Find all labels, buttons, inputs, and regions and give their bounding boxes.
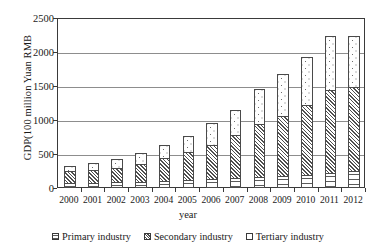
bar-segment-tertiary[interactable] (325, 36, 337, 91)
x-axis-tick-mark (294, 188, 295, 192)
legend-item[interactable]: Primary industry (52, 231, 131, 242)
bar-stack[interactable] (277, 74, 289, 187)
y-axis-tick-mark (53, 188, 57, 189)
bar-segment-secondary[interactable] (277, 116, 289, 177)
bar-series-container (58, 19, 364, 187)
bar-segment-primary[interactable] (254, 177, 266, 188)
bar-segment-tertiary[interactable] (348, 36, 360, 88)
x-axis-tick-mark (223, 188, 224, 192)
bar-segment-primary[interactable] (230, 178, 242, 188)
bar-segment-primary[interactable] (64, 183, 76, 188)
x-axis-tick-mark (128, 188, 129, 192)
bar-segment-secondary[interactable] (183, 152, 195, 181)
chart-legend: Primary industrySecondary industryTertia… (0, 231, 376, 242)
bar-segment-tertiary[interactable] (254, 89, 266, 125)
bar-segment-primary[interactable] (206, 179, 218, 188)
bar-stack[interactable] (348, 36, 360, 187)
x-axis-tick-mark (365, 188, 366, 192)
bar-stack[interactable] (64, 166, 76, 187)
x-axis-tick-mark (270, 188, 271, 192)
bar-segment-secondary[interactable] (88, 170, 100, 184)
bar-stack[interactable] (88, 163, 100, 187)
x-axis-tick-mark (175, 188, 176, 192)
bar-segment-tertiary[interactable] (206, 123, 218, 145)
x-axis-tick-label: 2005 (178, 194, 197, 205)
x-axis-tick-mark (81, 188, 82, 192)
bar-stack[interactable] (301, 57, 313, 187)
bar-segment-secondary[interactable] (159, 158, 171, 181)
bar-segment-primary[interactable] (111, 182, 123, 188)
bar-segment-secondary[interactable] (325, 90, 337, 174)
bar-segment-secondary[interactable] (230, 135, 242, 180)
x-axis-tick-label: 2004 (154, 194, 173, 205)
bar-stack[interactable] (230, 110, 242, 187)
bar-segment-primary[interactable] (348, 171, 360, 188)
bar-segment-tertiary[interactable] (301, 57, 313, 106)
y-axis-title: GDP(100 million Yuan RMB (22, 8, 33, 188)
legend-swatch-primary (52, 233, 59, 240)
x-axis-tick-mark (318, 188, 319, 192)
x-axis-tick-label: 2000 (59, 194, 78, 205)
legend-item[interactable]: Tertiary industry (246, 231, 324, 242)
x-axis-tick-label: 2003 (130, 194, 149, 205)
legend-label: Primary industry (62, 231, 131, 242)
bar-segment-primary[interactable] (88, 183, 100, 188)
x-axis-tick-label: 2006 (201, 194, 220, 205)
bar-segment-primary[interactable] (159, 181, 171, 188)
y-axis-tick-label: 0 (14, 183, 54, 194)
legend-swatch-tertiary (246, 233, 253, 240)
bar-segment-secondary[interactable] (111, 168, 123, 184)
bar-segment-secondary[interactable] (301, 105, 313, 176)
x-axis-tick-label: 2002 (107, 194, 126, 205)
bar-segment-secondary[interactable] (348, 87, 360, 172)
bar-stack[interactable] (183, 136, 195, 187)
x-axis-tick-label: 2008 (249, 194, 268, 205)
bar-stack[interactable] (159, 145, 171, 187)
bar-segment-secondary[interactable] (254, 124, 266, 178)
bar-segment-tertiary[interactable] (159, 145, 171, 160)
bar-segment-tertiary[interactable] (183, 136, 195, 153)
x-axis-tick-label: 2007 (225, 194, 244, 205)
x-axis-tick-mark (104, 188, 105, 192)
bar-segment-primary[interactable] (277, 176, 289, 188)
x-axis-title: year (0, 209, 376, 220)
bar-segment-primary[interactable] (325, 173, 337, 188)
bar-segment-tertiary[interactable] (277, 74, 289, 117)
x-axis-tick-label: 2010 (296, 194, 315, 205)
x-axis-tick-label: 2011 (320, 194, 339, 205)
bar-segment-primary[interactable] (183, 180, 195, 188)
bar-segment-primary[interactable] (135, 182, 147, 188)
bar-stack[interactable] (206, 123, 218, 187)
bar-segment-secondary[interactable] (135, 164, 147, 183)
y-axis-tick-label: 2000 (14, 47, 54, 58)
x-axis-tick-mark (199, 188, 200, 192)
legend-label: Secondary industry (154, 231, 233, 242)
bar-segment-primary[interactable] (301, 175, 313, 188)
bar-stack[interactable] (111, 159, 123, 187)
legend-swatch-secondary (144, 233, 151, 240)
legend-label: Tertiary industry (256, 231, 324, 242)
bar-stack[interactable] (254, 89, 266, 187)
bar-stack[interactable] (135, 153, 147, 187)
y-axis-tick-label: 1000 (14, 115, 54, 126)
bar-stack[interactable] (325, 36, 337, 187)
bar-segment-secondary[interactable] (206, 145, 218, 180)
y-axis-tick-label: 2500 (14, 13, 54, 24)
gdp-stacked-bar-chart: GDP(100 million Yuan RMB 050010001500200… (0, 0, 376, 251)
plot-area (57, 18, 365, 188)
y-axis-tick-label: 1500 (14, 81, 54, 92)
x-axis-tick-mark (341, 188, 342, 192)
x-axis-tick-label: 2012 (344, 194, 363, 205)
x-axis-tick-mark (247, 188, 248, 192)
bar-segment-tertiary[interactable] (230, 110, 242, 135)
legend-item[interactable]: Secondary industry (144, 231, 233, 242)
x-axis-tick-mark (152, 188, 153, 192)
x-axis-tick-label: 2001 (83, 194, 102, 205)
y-axis-tick-label: 500 (14, 149, 54, 160)
x-axis-tick-label: 2009 (272, 194, 291, 205)
